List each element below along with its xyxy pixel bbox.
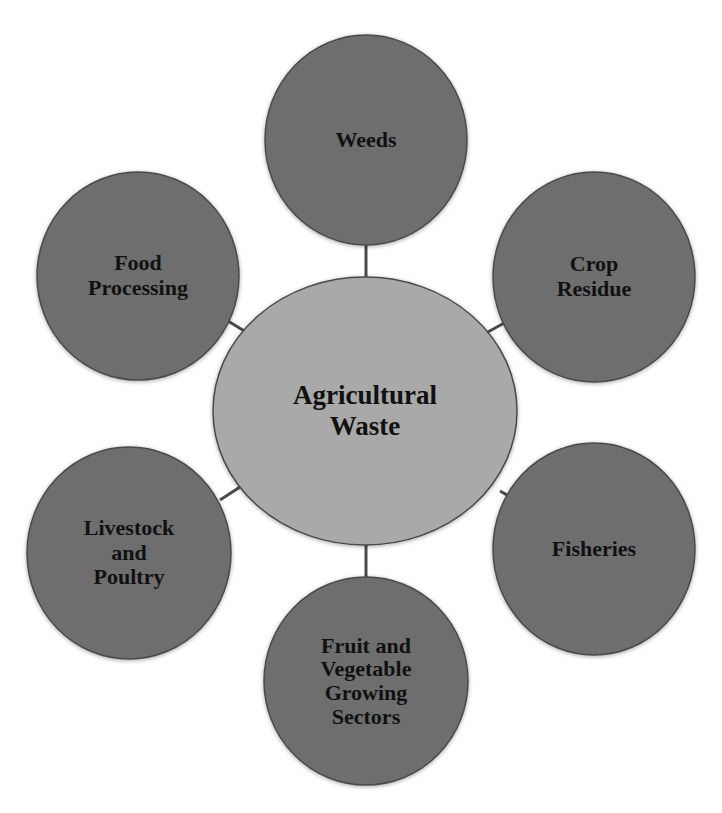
- center-node-circle[interactable]: [213, 277, 517, 545]
- node-fruit-and-vegetable-circle[interactable]: [264, 577, 468, 785]
- diagram-canvas: [0, 0, 722, 813]
- node-weeds-circle[interactable]: [265, 35, 467, 245]
- node-food-processing-circle[interactable]: [37, 172, 239, 380]
- node-fisheries-circle[interactable]: [493, 443, 695, 655]
- connector-livestock-and-poultry: [220, 487, 240, 500]
- node-crop-residue-circle[interactable]: [493, 172, 695, 382]
- node-livestock-and-poultry-circle[interactable]: [27, 447, 231, 659]
